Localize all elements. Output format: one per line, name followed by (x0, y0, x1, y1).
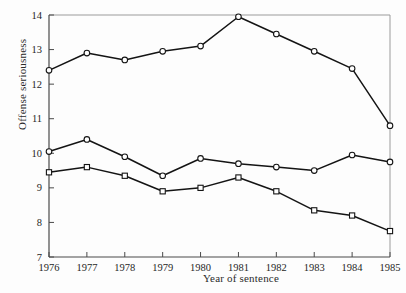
data-series-middle (46, 137, 393, 179)
data-point-marker (198, 156, 204, 162)
plot-frame (49, 15, 390, 257)
y-tick-label: 8 (37, 217, 42, 228)
line-chart-plot: 7891011121314 19761977197819791980198119… (0, 0, 406, 293)
chart-container: 7891011121314 19761977197819791980198119… (0, 0, 406, 293)
data-point-marker (160, 173, 166, 179)
series-line-lower (49, 167, 390, 231)
data-series-group (46, 14, 393, 234)
data-point-marker (198, 185, 203, 190)
x-tick-label: 1985 (380, 262, 401, 273)
y-tick-label: 13 (32, 44, 43, 55)
x-tick-label: 1978 (114, 262, 135, 273)
data-point-marker (84, 137, 90, 143)
y-tick-label: 7 (37, 252, 42, 263)
data-point-marker (198, 43, 204, 49)
data-series-upper (46, 14, 393, 128)
x-tick-label: 1984 (342, 262, 364, 273)
x-axis-ticks: 1976197719781979198019811982198319841985 (39, 252, 401, 273)
data-point-marker (350, 213, 355, 218)
data-point-marker (387, 228, 392, 233)
data-point-marker (387, 159, 393, 165)
data-point-marker (236, 161, 242, 167)
y-axis-ticks: 7891011121314 (32, 10, 55, 263)
data-series-lower (46, 165, 392, 234)
data-point-marker (312, 208, 317, 213)
data-point-marker (236, 175, 241, 180)
y-tick-label: 10 (32, 148, 43, 159)
x-tick-label: 1976 (39, 262, 60, 273)
data-point-marker (387, 123, 393, 129)
data-point-marker (349, 152, 355, 158)
data-point-marker (46, 149, 52, 155)
series-line-upper (49, 17, 390, 126)
y-tick-label: 11 (32, 113, 42, 124)
data-point-marker (160, 189, 165, 194)
data-point-marker (122, 57, 128, 63)
data-point-marker (274, 164, 280, 170)
data-point-marker (122, 173, 127, 178)
data-point-marker (84, 50, 90, 56)
y-tick-label: 9 (37, 182, 42, 193)
x-tick-label: 1977 (76, 262, 97, 273)
x-tick-label: 1983 (304, 262, 325, 273)
data-point-marker (274, 31, 280, 37)
data-point-marker (274, 189, 279, 194)
y-tick-label: 14 (32, 10, 43, 21)
data-point-marker (311, 168, 317, 174)
data-point-marker (236, 14, 242, 20)
data-point-marker (46, 170, 51, 175)
x-axis-title: Year of sentence (203, 272, 279, 284)
data-point-marker (311, 49, 317, 55)
data-point-marker (46, 68, 52, 74)
data-point-marker (122, 154, 128, 160)
data-point-marker (84, 165, 89, 170)
data-point-marker (349, 66, 355, 72)
x-tick-label: 1979 (152, 262, 173, 273)
data-point-marker (160, 49, 166, 55)
y-axis-title: Offense seriousness (16, 39, 28, 130)
y-tick-label: 12 (32, 79, 43, 90)
